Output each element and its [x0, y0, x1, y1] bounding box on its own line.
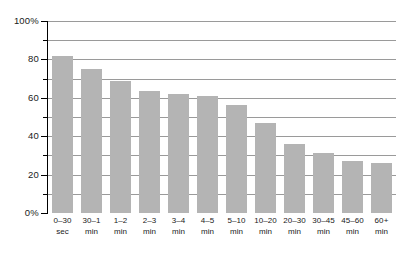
bar	[81, 69, 102, 213]
x-tick-label: 3–4min	[164, 216, 193, 237]
bar	[255, 123, 276, 213]
y-tick-minor	[43, 117, 47, 118]
x-tick-label: 5–10min	[222, 216, 251, 237]
y-tick-major	[41, 175, 47, 176]
x-tick-label-line1: 1–2	[114, 216, 128, 225]
x-tick-label: 2–3min	[135, 216, 164, 237]
x-tick-label-line2: min	[280, 227, 309, 238]
bar	[342, 161, 363, 213]
bar	[371, 163, 392, 213]
x-tick-label-line2: min	[251, 227, 280, 238]
plot-area	[48, 21, 396, 213]
bars	[48, 21, 396, 213]
x-tick-label-line2: min	[106, 227, 135, 238]
bar	[226, 105, 247, 213]
y-tick-major	[41, 213, 47, 214]
x-tick-label-line1: 60+	[375, 216, 389, 225]
x-tick-label-line1: 3–4	[172, 216, 186, 225]
y-tick-major	[41, 59, 47, 60]
y-tick-label: 80	[1, 54, 39, 64]
y-tick-label: 60	[1, 93, 39, 103]
bar	[197, 96, 218, 213]
bar	[168, 94, 189, 213]
x-tick-label: 4–5min	[193, 216, 222, 237]
x-tick-label-line1: 30–45	[312, 216, 335, 225]
x-tick-label: 0–30sec	[48, 216, 77, 237]
x-tick-label-line2: min	[222, 227, 251, 238]
x-tick-label-line1: 2–3	[143, 216, 157, 225]
x-tick-label-line2: min	[338, 227, 367, 238]
x-tick-label-line2: min	[193, 227, 222, 238]
x-tick-label: 45–60min	[338, 216, 367, 237]
y-tick-label: 20	[1, 170, 39, 180]
x-tick-label-line1: 5–10	[227, 216, 245, 225]
x-tick-label: 60+min	[367, 216, 396, 237]
bar	[139, 91, 160, 213]
bar	[110, 81, 131, 213]
x-tick-label-line2: sec	[48, 227, 77, 238]
y-tick-minor	[43, 40, 47, 41]
x-tick-label: 20–30min	[280, 216, 309, 237]
x-tick-label-line1: 20–30	[283, 216, 306, 225]
x-tick-label-line2: min	[367, 227, 396, 238]
bar	[52, 56, 73, 213]
bar	[284, 144, 305, 213]
x-tick-label-line2: min	[309, 227, 338, 238]
y-tick-major	[41, 98, 47, 99]
y-tick-label: 40	[1, 131, 39, 141]
y-tick-minor	[43, 155, 47, 156]
bar	[313, 153, 334, 213]
x-tick-label-line2: min	[77, 227, 106, 238]
x-tick-label-line1: 10–20	[254, 216, 277, 225]
x-tick-label-line1: 4–5	[201, 216, 215, 225]
y-tick-major	[41, 136, 47, 137]
x-tick-label-line1: 0–30	[53, 216, 71, 225]
y-tick-minor	[43, 79, 47, 80]
x-tick-label: 30–45min	[309, 216, 338, 237]
x-tick-label: 30–1min	[77, 216, 106, 237]
y-tick-minor	[43, 194, 47, 195]
x-tick-label: 10–20min	[251, 216, 280, 237]
y-tick-major	[41, 21, 47, 22]
x-tick-label-line2: min	[135, 227, 164, 238]
x-tick-label-line1: 45–60	[341, 216, 364, 225]
x-tick-label-line1: 30–1	[82, 216, 100, 225]
x-axis-labels: 0–30sec30–1min1–2min2–3min3–4min4–5min5–…	[48, 216, 396, 246]
x-tick-label: 1–2min	[106, 216, 135, 237]
bar-chart: 0%20406080100% 0–30sec30–1min1–2min2–3mi…	[0, 0, 417, 258]
y-tick-label: 0%	[1, 208, 39, 218]
y-tick-label: 100%	[1, 16, 39, 26]
y-axis-labels: 0%20406080100%	[0, 0, 39, 258]
x-tick-label-line2: min	[164, 227, 193, 238]
